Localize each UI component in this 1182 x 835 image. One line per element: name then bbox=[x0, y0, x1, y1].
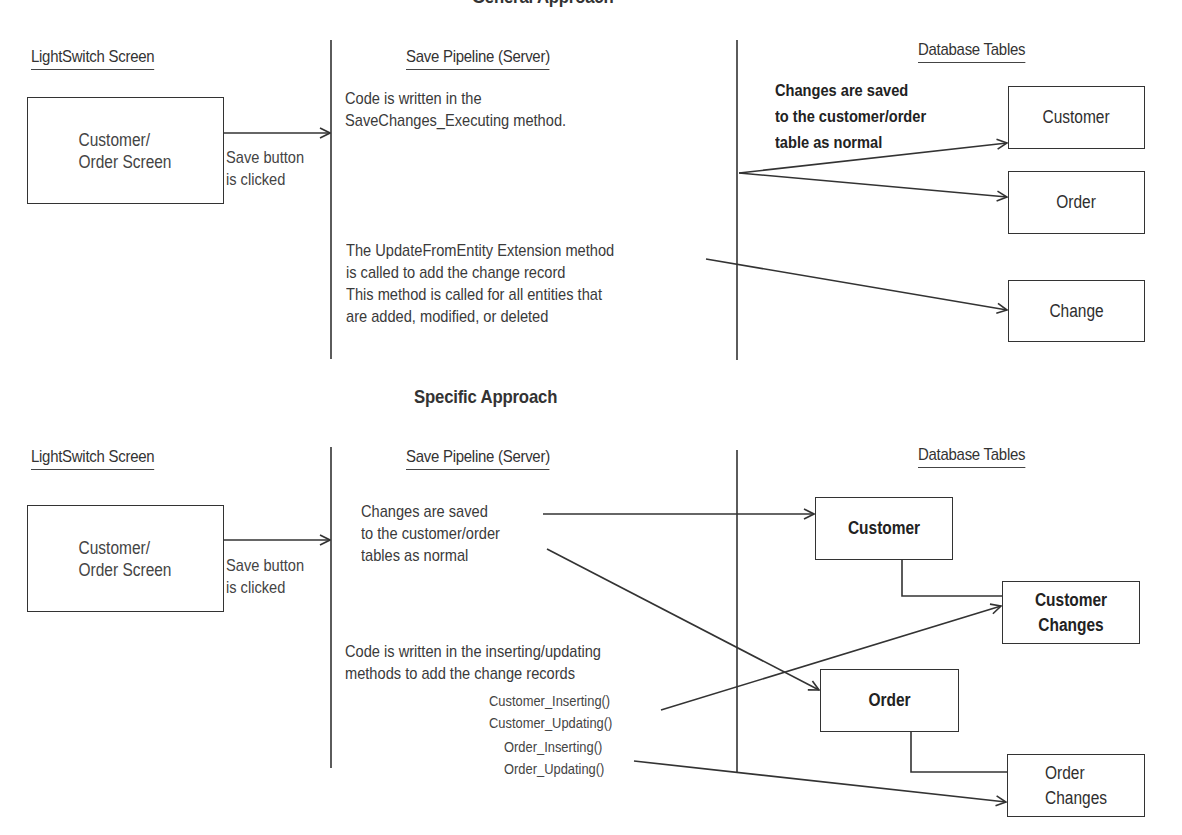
note-line: SaveChanges_Executing method. bbox=[345, 110, 566, 132]
bottom-table-customer: Customer bbox=[815, 497, 953, 560]
method-customer-updating: Customer_Updating() bbox=[489, 712, 612, 733]
label-line: Order Screen bbox=[79, 151, 172, 173]
table-label: Change bbox=[1049, 299, 1103, 324]
top-header-lightswitch-screen: LightSwitch Screen bbox=[31, 47, 154, 70]
header-text: LightSwitch Screen bbox=[31, 447, 154, 470]
table-label: Customer bbox=[1043, 105, 1110, 130]
screen-box-label: Customer/ Order Screen bbox=[79, 537, 172, 581]
bottom-customer-order-screen-box: Customer/ Order Screen bbox=[27, 505, 224, 612]
note-line: This method is called for all entities t… bbox=[346, 284, 614, 306]
top-customer-order-screen-box: Customer/ Order Screen bbox=[27, 97, 224, 204]
label-line: Changes bbox=[1035, 613, 1107, 638]
top-table-customer: Customer bbox=[1008, 86, 1145, 149]
specific-approach-title: Specific Approach bbox=[414, 386, 557, 408]
header-text: Database Tables bbox=[918, 40, 1025, 63]
bottom-arrow-to-order-changes bbox=[634, 761, 1006, 802]
method-order-updating: Order_Updating() bbox=[504, 758, 604, 779]
table-label: Customer bbox=[848, 516, 920, 541]
note-line: is called to add the change record bbox=[346, 262, 614, 284]
bottom-pipeline-note-inserting-updating: Code is written in the inserting/updatin… bbox=[345, 641, 601, 685]
note-line: Save button bbox=[226, 555, 304, 577]
customer-to-customer-changes-link bbox=[902, 560, 1002, 596]
top-pipeline-note-savechanges: Code is written in the SaveChanges_Execu… bbox=[345, 88, 566, 132]
table-label: Customer Changes bbox=[1035, 588, 1107, 638]
header-text: Database Tables bbox=[918, 445, 1025, 468]
note-line: to the customer/order bbox=[775, 104, 926, 130]
top-arrow-to-change bbox=[706, 259, 1007, 310]
top-tables-note: Changes are saved to the customer/order … bbox=[775, 78, 926, 156]
table-label: Order bbox=[868, 688, 910, 713]
top-header-database-tables: Database Tables bbox=[918, 40, 1025, 63]
top-pipeline-note-updatefromentity: The UpdateFromEntity Extension method is… bbox=[346, 240, 614, 328]
label-line: Order bbox=[1045, 761, 1107, 786]
label-line: Order Screen bbox=[79, 559, 172, 581]
bottom-table-order: Order bbox=[820, 669, 959, 732]
screen-box-label: Customer/ Order Screen bbox=[79, 129, 172, 173]
header-text: Save Pipeline (Server) bbox=[406, 47, 550, 70]
top-arrow-to-order bbox=[739, 173, 1007, 197]
note-line: methods to add the change records bbox=[345, 663, 601, 685]
method-customer-inserting: Customer_Inserting() bbox=[489, 690, 610, 711]
note-line: Code is written in the bbox=[345, 88, 566, 110]
note-line: is clicked bbox=[226, 577, 304, 599]
bottom-save-button-note: Save button is clicked bbox=[226, 555, 304, 599]
note-line: Code is written in the inserting/updatin… bbox=[345, 641, 601, 663]
label-line: Customer/ bbox=[79, 537, 172, 559]
bottom-header-database-tables: Database Tables bbox=[918, 445, 1025, 468]
note-line: tables as normal bbox=[361, 545, 500, 567]
note-line: Changes are saved bbox=[775, 78, 926, 104]
top-table-order: Order bbox=[1008, 171, 1145, 234]
note-line: is clicked bbox=[226, 169, 304, 191]
bottom-table-customer-changes: Customer Changes bbox=[1002, 581, 1140, 644]
label-line: Customer/ bbox=[79, 129, 172, 151]
bottom-header-lightswitch-screen: LightSwitch Screen bbox=[31, 447, 154, 470]
header-text: LightSwitch Screen bbox=[31, 47, 154, 70]
order-to-order-changes-link bbox=[911, 732, 1007, 772]
note-line: table as normal bbox=[775, 130, 926, 156]
bottom-pipeline-note-changes-saved: Changes are saved to the customer/order … bbox=[361, 501, 500, 567]
table-label: Order Changes bbox=[1045, 761, 1107, 811]
header-text: Save Pipeline (Server) bbox=[406, 447, 550, 470]
general-approach-title: General Approach bbox=[472, 0, 614, 8]
method-order-inserting: Order_Inserting() bbox=[504, 736, 602, 757]
note-line: are added, modified, or deleted bbox=[346, 306, 614, 328]
note-line: The UpdateFromEntity Extension method bbox=[346, 240, 614, 262]
label-line: Customer bbox=[1035, 588, 1107, 613]
top-header-save-pipeline: Save Pipeline (Server) bbox=[406, 47, 550, 70]
bottom-table-order-changes: Order Changes bbox=[1007, 754, 1145, 817]
table-label: Order bbox=[1057, 190, 1097, 215]
note-line: to the customer/order bbox=[361, 523, 500, 545]
top-table-change: Change bbox=[1008, 280, 1145, 342]
label-line: Changes bbox=[1045, 786, 1107, 811]
note-line: Changes are saved bbox=[361, 501, 500, 523]
note-line: Save button bbox=[226, 147, 304, 169]
bottom-header-save-pipeline: Save Pipeline (Server) bbox=[406, 447, 550, 470]
top-save-button-note: Save button is clicked bbox=[226, 147, 304, 191]
